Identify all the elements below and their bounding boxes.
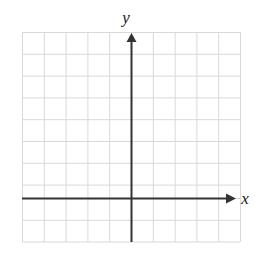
y-axis-label: y: [120, 8, 130, 27]
coordinate-plane-graphic: x y: [0, 0, 267, 253]
coordinate-plane-figure: x y: [0, 0, 267, 253]
x-axis-label: x: [240, 189, 249, 208]
